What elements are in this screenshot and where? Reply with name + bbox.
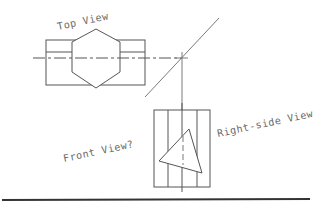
top-view: Top View [33, 10, 182, 88]
projection-lines [145, 18, 219, 110]
drawing-canvas: Top View Right-side View Front View? [0, 0, 315, 206]
top-view-label: Top View [56, 10, 110, 32]
front-view-area: Front View? [62, 138, 134, 164]
front-view-label: Front View? [62, 138, 134, 164]
right-side-view: Right-side View [154, 103, 315, 192]
right-side-view-label: Right-side View [216, 108, 314, 139]
baseline [2, 199, 310, 200]
right-side-view-triangle [159, 129, 202, 173]
